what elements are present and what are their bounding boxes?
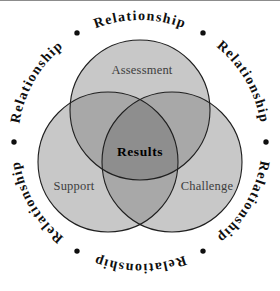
challenge-label: Challenge bbox=[181, 179, 234, 193]
ring-bullet-icon bbox=[74, 248, 79, 253]
ring-word-label: Relationship bbox=[92, 8, 189, 31]
ring-word-top: Relationship bbox=[92, 8, 189, 31]
ring-bullet-icon bbox=[200, 248, 205, 253]
ring-bullet-icon bbox=[263, 139, 268, 144]
ring-word-bottom: Relationship bbox=[91, 253, 188, 276]
venn-relationship-diagram: Assessment Support Challenge Results Rel… bbox=[0, 0, 280, 291]
svg-text:Relationship: Relationship bbox=[91, 253, 188, 276]
ring-bullet-icon bbox=[74, 30, 79, 35]
results-label: Results bbox=[117, 144, 163, 159]
ring-word-label: Relationship bbox=[91, 253, 188, 276]
support-label: Support bbox=[54, 179, 95, 193]
ring-bullet-icon bbox=[200, 30, 205, 35]
ring-bullet-icon bbox=[11, 139, 16, 144]
assessment-label: Assessment bbox=[111, 63, 172, 77]
svg-text:Relationship: Relationship bbox=[92, 8, 189, 31]
